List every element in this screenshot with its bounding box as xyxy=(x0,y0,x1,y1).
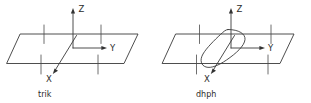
panel-trik: Z Y X trik xyxy=(7,4,138,100)
axis-x-arrowhead-trik xyxy=(53,69,58,75)
axis-z-arrowhead-trik xyxy=(71,8,75,14)
diagram-canvas: Z Y X trik Z xyxy=(0,0,311,103)
figure-container: Z Y X trik Z xyxy=(0,0,311,103)
panel-dhph: Z Y X dhph xyxy=(163,4,295,100)
axis-y-arrowhead-dhph xyxy=(259,46,265,50)
axis-y-arrowhead-trik xyxy=(101,46,107,50)
caption-trik: trik xyxy=(38,90,52,99)
axis-x-line-dhph xyxy=(213,36,235,71)
caption-dhph: dhph xyxy=(196,90,216,99)
axis-y-label-trik: Y xyxy=(109,43,116,53)
plane-parallelogram-trik xyxy=(7,34,138,64)
axis-x-line-trik xyxy=(55,36,77,71)
axis-x-label-dhph: X xyxy=(204,74,210,84)
axis-y-label-dhph: Y xyxy=(267,43,274,53)
axis-z-arrowhead-dhph xyxy=(229,8,233,14)
axis-z-label-dhph: Z xyxy=(237,4,243,14)
axis-x-arrowhead-dhph xyxy=(211,69,216,75)
axis-z-label-trik: Z xyxy=(79,4,85,14)
axis-x-label-trik: X xyxy=(46,74,52,84)
